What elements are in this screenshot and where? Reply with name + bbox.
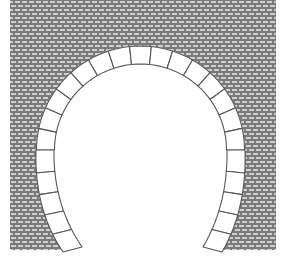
arch-diagram: Horseshoe arch in brick wall [0,0,281,264]
voussoir [225,128,245,150]
arch-drawing [0,0,281,264]
keystone [130,46,152,64]
right-leg-block [226,150,245,173]
left-leg-block [36,150,55,173]
left-leg-block [36,171,58,194]
right-leg-block [224,171,245,194]
horseshoe-arch [36,46,245,264]
